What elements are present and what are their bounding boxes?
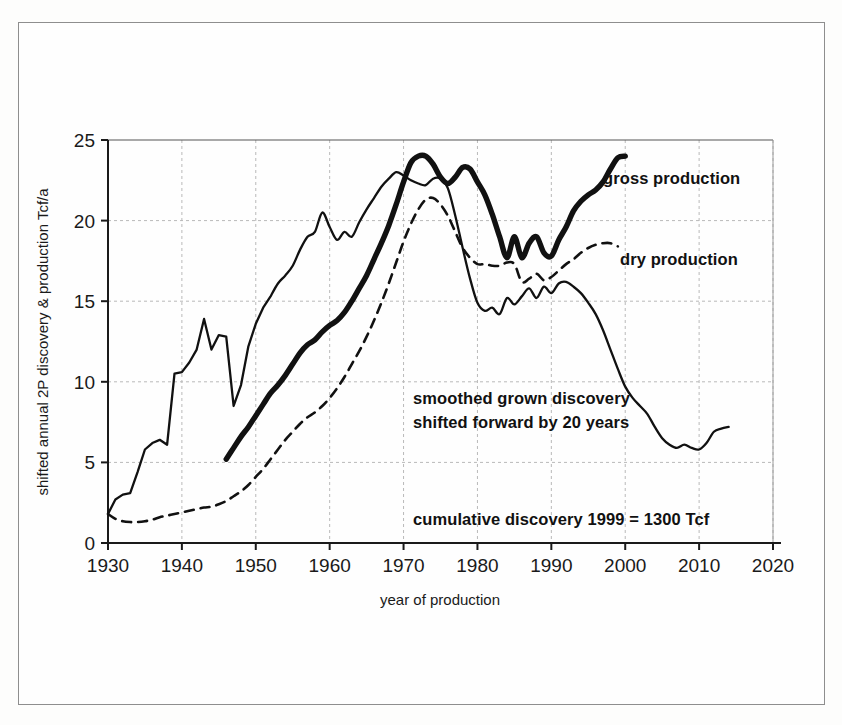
series-smoothed-grown-discovery bbox=[108, 172, 729, 514]
y-tick-label: 5 bbox=[84, 452, 95, 473]
x-tick-label: 1930 bbox=[87, 555, 129, 576]
annotation-cumulative-discovery: cumulative discovery 1999 = 1300 Tcf bbox=[413, 510, 710, 528]
annotation-gross-production: gross production bbox=[603, 169, 740, 187]
y-axis-title: shifted annual 2P discovery & production… bbox=[34, 188, 51, 496]
x-tick-label: 1990 bbox=[530, 555, 572, 576]
x-tick-label: 2000 bbox=[604, 555, 646, 576]
y-tick-label: 10 bbox=[74, 372, 95, 393]
x-tick-label: 1960 bbox=[309, 555, 351, 576]
data-series-group bbox=[108, 155, 729, 522]
x-tick-label: 1950 bbox=[235, 555, 277, 576]
annotation-discovery-line1: smoothed grown discovery bbox=[413, 389, 631, 407]
x-tick-label: 1970 bbox=[382, 555, 424, 576]
x-axis-title: year of production bbox=[380, 591, 500, 608]
x-tick-label: 2020 bbox=[752, 555, 794, 576]
y-tick-label: 0 bbox=[84, 533, 95, 554]
y-tick-label: 15 bbox=[74, 291, 95, 312]
x-tick-label: 1980 bbox=[456, 555, 498, 576]
annotation-discovery-line2: shifted forward by 20 years bbox=[413, 413, 629, 431]
y-tick-label: 20 bbox=[74, 211, 95, 232]
annotation-dry-production: dry production bbox=[620, 250, 738, 268]
x-tick-label: 2010 bbox=[678, 555, 720, 576]
figure-root: 1930194019501960197019801990200020102020… bbox=[0, 0, 842, 725]
line-chart: 1930194019501960197019801990200020102020… bbox=[0, 0, 842, 725]
chart-canvas: 1930194019501960197019801990200020102020… bbox=[0, 0, 842, 725]
y-tick-label: 25 bbox=[74, 130, 95, 151]
x-tick-label: 1940 bbox=[161, 555, 203, 576]
gridlines-group bbox=[108, 140, 773, 543]
